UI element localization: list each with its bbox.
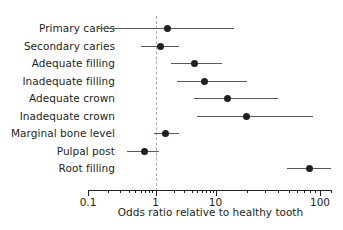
axis-tick-minor [135,190,136,193]
axis-tick-minor [304,190,305,193]
data-point [157,43,164,50]
axis-tick-label: 100 [310,197,330,208]
axis-tick-minor [278,190,279,193]
confidence-interval-line [177,81,247,82]
axis-tick-minor [141,190,142,193]
axis-tick-minor [184,190,185,193]
plot-area [0,0,343,195]
axis-tick-minor [129,190,130,193]
axis-tick-minor [310,190,311,193]
axis-tick-minor [202,190,203,193]
data-point [224,95,231,102]
reference-line-null-effect [156,16,157,191]
axis-tick-minor [108,190,109,193]
axis-tick-minor [145,190,146,193]
forest-plot-figure: Primary cariesSecondary cariesAdequate f… [0,0,343,230]
axis-tick-minor [247,190,248,193]
x-axis-title: Odds ratio relative to healthy tooth [0,207,343,218]
axis-tick-label: 0.1 [80,197,97,208]
axis-tick-minor [149,190,150,193]
x-axis-title-text: Odds ratio relative to healthy tooth [40,207,303,218]
data-point [201,78,208,85]
axis-tick-minor [174,190,175,193]
data-point [306,165,313,172]
axis-tick-minor [210,190,211,193]
axis-tick-minor [213,190,214,193]
axis-tick-end [331,190,332,193]
axis-tick-minor [297,190,298,193]
axis-tick-minor [152,190,153,193]
axis-tick-minor [206,190,207,193]
data-point [141,148,148,155]
data-point [162,130,169,137]
axis-tick-minor [120,190,121,193]
axis-tick-minor [265,190,266,193]
confidence-interval-line [197,116,312,117]
data-point [164,25,171,32]
axis-tick-minor [315,190,316,193]
confidence-interval-line [194,98,279,99]
axis-tick-minor [197,190,198,193]
axis-tick-minor [192,190,193,193]
data-point [191,60,198,67]
axis-tick-minor [289,190,290,193]
data-point [243,113,250,120]
